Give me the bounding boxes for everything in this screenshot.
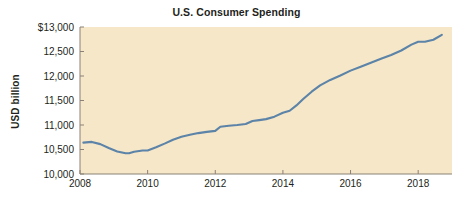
y-tick-label: $13,000 [38, 22, 75, 33]
x-tick-label: 2010 [137, 178, 160, 189]
y-tick-label: 12,500 [43, 46, 74, 57]
x-tick-label: 2016 [339, 178, 362, 189]
y-axis-ticks: 10,00010,50011,00011,50012,00012,500$13,… [38, 22, 84, 180]
y-tick-label: 10,500 [43, 144, 74, 155]
y-tick-label: 11,500 [44, 95, 74, 106]
chart-figure: U.S. Consumer Spending USD billion 10,00… [0, 0, 473, 204]
x-tick-label: 2018 [407, 178, 430, 189]
y-tick-label: 11,000 [44, 120, 74, 131]
x-tick-label: 2012 [204, 178, 227, 189]
x-tick-label: 2014 [272, 178, 295, 189]
y-tick-label: 12,000 [43, 71, 74, 82]
plot-area: 10,00010,50011,00011,50012,00012,500$13,… [0, 0, 473, 204]
x-tick-label: 2008 [69, 178, 92, 189]
